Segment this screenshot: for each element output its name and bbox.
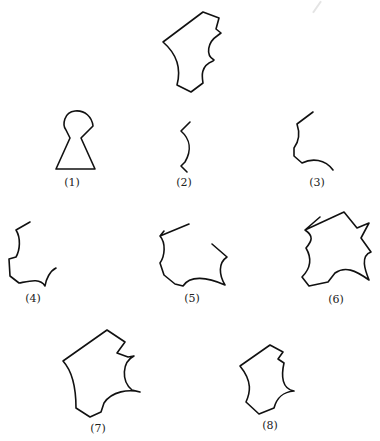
label-2: (2) (176, 176, 192, 189)
label-7: (7) (90, 422, 106, 435)
label-4: (4) (25, 292, 41, 305)
label-5: (5) (184, 292, 200, 305)
shape-1-keyhole (56, 111, 95, 169)
shape-3-curve (294, 112, 333, 170)
target-shape (163, 12, 221, 92)
label-8: (8) (262, 419, 278, 432)
shape-7-outline (63, 330, 140, 417)
shape-5-outline (160, 224, 227, 286)
figure-drawing (0, 0, 380, 441)
figure-canvas: (1) (2) (3) (4) (5) (6) (7) (8) (0, 0, 380, 441)
label-3: (3) (309, 176, 325, 189)
shape-8-outline (240, 345, 294, 414)
shape-2-curve (181, 122, 190, 172)
label-6: (6) (328, 293, 344, 306)
shape-4-outline (9, 222, 56, 286)
label-1: (1) (64, 176, 80, 189)
shape-6-outline (302, 212, 371, 286)
